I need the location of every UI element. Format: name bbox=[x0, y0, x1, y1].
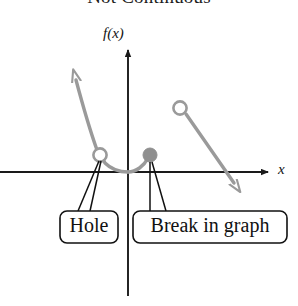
hole-open-circle bbox=[93, 148, 106, 161]
hole-callout-label: Hole bbox=[60, 214, 118, 237]
not-continuous-figure: Not Continuous bbox=[0, 0, 298, 306]
break-leader-line-2 bbox=[152, 162, 166, 211]
x-axis-label: x bbox=[278, 161, 285, 178]
filled-point bbox=[143, 148, 157, 162]
y-axis-label: f(x) bbox=[103, 25, 124, 42]
graph-canvas bbox=[0, 0, 298, 306]
jump-open-circle bbox=[173, 101, 186, 114]
curve-left-upper bbox=[76, 80, 97, 150]
break-callout-label: Break in graph bbox=[133, 214, 287, 237]
